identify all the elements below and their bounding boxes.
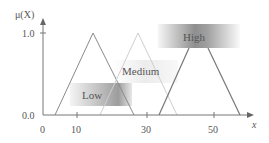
x-tick-label-0: 0 bbox=[40, 124, 45, 135]
y-axis-label: μ(X) bbox=[15, 9, 34, 21]
low-label: Low bbox=[82, 89, 102, 101]
x-tick-label-10: 10 bbox=[71, 124, 81, 135]
fuzzy-membership-chart: μ(X) 1.0 0.0 0 10 30 50 x Low Medium Hig… bbox=[0, 0, 269, 143]
high-label: High bbox=[183, 31, 206, 43]
y-tick-label-bottom: 0.0 bbox=[22, 110, 35, 121]
x-axis-arrow-icon bbox=[247, 112, 254, 118]
x-axis-label: x bbox=[251, 119, 257, 130]
high-membership-line-right bbox=[208, 48, 240, 115]
y-axis-arrow-icon bbox=[40, 18, 46, 25]
x-tick-label-50: 50 bbox=[208, 124, 218, 135]
y-tick-label-top: 1.0 bbox=[22, 28, 35, 39]
x-tick-label-30: 30 bbox=[141, 124, 151, 135]
medium-label: Medium bbox=[122, 65, 160, 77]
